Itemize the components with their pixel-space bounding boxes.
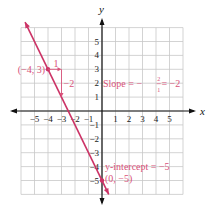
slope-numerator: 2 (157, 76, 160, 82)
slope-denominator: 1 (157, 87, 160, 93)
x-tick-label: −3 (57, 114, 67, 124)
y-tick-label: −2 (89, 134, 99, 144)
y-axis-label: y (98, 3, 104, 15)
slope-annotation: Slope = − (103, 78, 142, 89)
data-point (100, 178, 104, 182)
x-axis-arrow-left-icon (10, 109, 17, 114)
y-tick-label: 3 (95, 64, 100, 74)
y-tick-label: 5 (95, 37, 100, 47)
y-tick-label: 2 (95, 78, 100, 88)
point-label-neg4-3: (−4, 3) (18, 64, 45, 76)
line-graph (25, 22, 109, 194)
run-label: 1 (53, 58, 58, 69)
y-intercept-annotation: y-intercept = −5 (105, 161, 170, 172)
point-label-0-neg5: (0, −5) (105, 173, 132, 185)
x-tick-label: −5 (30, 114, 40, 124)
y-axis-arrow-down-icon (100, 198, 105, 205)
y-tick-label: 1 (95, 92, 100, 102)
x-axis-label: x (199, 105, 205, 117)
y-tick-label: 4 (95, 50, 100, 60)
y-axis-arrow-up-icon (100, 18, 105, 25)
x-tick-label: 5 (167, 114, 172, 124)
line-series (25, 22, 109, 194)
x-tick-label: 2 (127, 114, 132, 124)
rise-label: −2 (64, 78, 75, 89)
slope-value: = −2 (161, 78, 180, 89)
y-tick-label: −5 (89, 176, 99, 186)
x-axis-arrow-right-icon (189, 109, 196, 114)
y-tick-label: −1 (89, 120, 99, 130)
x-tick-label: 4 (154, 114, 159, 124)
x-tick-label: 3 (140, 114, 145, 124)
x-tick-label: −4 (43, 114, 53, 124)
x-tick-label: 1 (113, 114, 118, 124)
coordinate-plane: xy −5−4−3−2−112345−5−4−3−2−112345 1−2(−4… (0, 0, 211, 213)
